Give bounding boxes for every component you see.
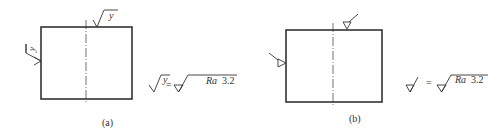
- diagram-canvas: y y y = Ra 3.2 (a) = Ra 3.2 (b): [0, 0, 504, 135]
- symbol-letter-top-a: y: [108, 10, 114, 21]
- roughness-symbol-top-b: [343, 22, 351, 29]
- eq-equals-a: =: [166, 79, 172, 90]
- panel-a: [26, 10, 237, 104]
- eq-equals-b: =: [426, 77, 432, 88]
- symbol-letter-left-a: y: [25, 45, 37, 53]
- roughness-symbol-top-a: [93, 10, 118, 27]
- eq-param-b: Ra: [454, 74, 466, 85]
- roughness-symbol-left-b-tail: [269, 53, 278, 60]
- caption-b: (b): [349, 113, 361, 125]
- roughness-symbol-left-a-short: [34, 61, 41, 65]
- eq-value-b: 3.2: [471, 74, 484, 85]
- roughness-symbol-top-b-tail: [349, 14, 358, 22]
- roughness-symbol-left-b: [278, 59, 286, 67]
- panel-b: [269, 14, 488, 107]
- eq-value-a: 3.2: [222, 75, 235, 86]
- part-outline-a: [41, 27, 132, 99]
- part-outline-b: [286, 30, 382, 102]
- eq-param-a: Ra: [205, 75, 217, 86]
- eq-lhs-tail-b: [410, 77, 418, 92]
- caption-a: (a): [102, 117, 113, 129]
